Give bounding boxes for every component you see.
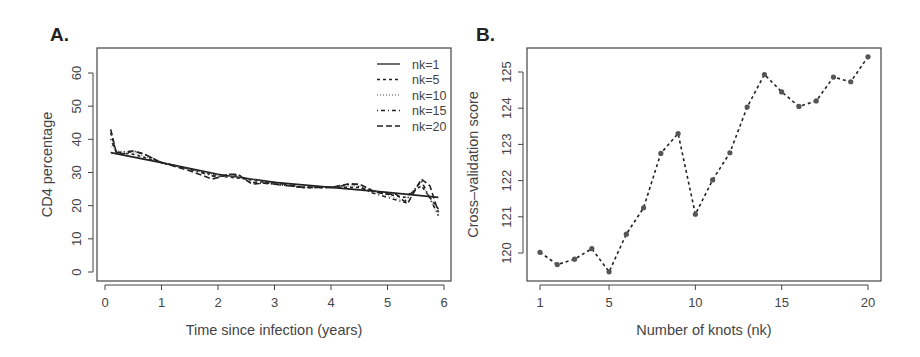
plot-frame — [527, 48, 881, 281]
data-point — [589, 246, 594, 251]
series-line-nk-15 — [111, 139, 439, 215]
data-point — [814, 98, 819, 103]
data-point — [537, 250, 542, 255]
y-tick-label: 10 — [69, 232, 84, 246]
y-axis: 0102030405060 — [69, 66, 93, 276]
chart-a: 0123456Time since infection (years)01020… — [0, 0, 460, 357]
y-tick-label: 0 — [69, 268, 84, 275]
legend-label: nk=10 — [412, 89, 446, 103]
data-point — [848, 79, 853, 84]
plot-frame — [97, 48, 451, 281]
chart-b: 15101520Number of knots (nk)120121122123… — [460, 0, 920, 357]
data-point — [796, 104, 801, 109]
x-tick-label: 0 — [101, 295, 108, 310]
y-tick-label: 40 — [69, 132, 84, 146]
x-tick-label: 2 — [214, 295, 221, 310]
data-point — [641, 205, 646, 210]
y-tick-label: 122 — [499, 170, 514, 192]
data-point — [555, 262, 560, 267]
y-tick-label: 30 — [69, 165, 84, 179]
x-tick-label: 15 — [774, 295, 788, 310]
data-point — [831, 74, 836, 79]
data-point — [865, 54, 870, 59]
y-tick-label: 123 — [499, 134, 514, 156]
y-tick-label: 50 — [69, 99, 84, 113]
data-point — [572, 257, 577, 262]
y-tick-label: 120 — [499, 242, 514, 264]
x-tick-label: 4 — [327, 295, 334, 310]
x-tick-label: 1 — [158, 295, 165, 310]
y-tick-label: 20 — [69, 198, 84, 212]
x-tick-label: 3 — [271, 295, 278, 310]
y-tick-label: 60 — [69, 66, 84, 80]
y-tick-label: 124 — [499, 97, 514, 119]
y-axis-label: CD4 percentage — [39, 112, 55, 218]
x-tick-label: 5 — [605, 295, 612, 310]
legend-label: nk=15 — [412, 104, 446, 118]
x-axis-label: Number of knots (nk) — [636, 322, 771, 338]
x-tick-label: 1 — [536, 295, 543, 310]
y-axis-label: Cross–validation score — [465, 91, 481, 238]
series-line-nk-1 — [111, 153, 439, 198]
series-line-nk-20 — [111, 129, 439, 212]
y-axis: 120121122123124125 — [499, 61, 523, 264]
data-point — [624, 232, 629, 237]
legend-label: nk=5 — [412, 73, 440, 87]
x-tick-label: 5 — [384, 295, 391, 310]
x-axis: 0123456 — [101, 285, 447, 310]
data-point — [658, 151, 663, 156]
series-line-nk-10 — [111, 146, 439, 216]
x-tick-label: 10 — [688, 295, 702, 310]
x-axis-label: Time since infection (years) — [186, 322, 363, 338]
panel-b: B. 15101520Number of knots (nk)120121122… — [460, 0, 920, 357]
x-tick-label: 20 — [861, 295, 875, 310]
legend-label: nk=20 — [412, 120, 446, 134]
y-tick-label: 121 — [499, 206, 514, 228]
legend: nk=1nk=5nk=10nk=15nk=20 — [377, 58, 446, 134]
y-tick-label: 125 — [499, 61, 514, 83]
data-point — [745, 105, 750, 110]
data-point — [727, 150, 732, 155]
series-line-cv-score — [540, 57, 868, 272]
data-point — [693, 212, 698, 217]
panel-a: A. 0123456Time since infection (years)01… — [0, 0, 460, 357]
data-point — [710, 177, 715, 182]
data-point — [676, 131, 681, 136]
data-point — [779, 89, 784, 94]
data-point — [762, 72, 767, 77]
x-axis: 15101520 — [536, 285, 875, 310]
data-point — [606, 269, 611, 274]
legend-label: nk=1 — [412, 58, 440, 72]
x-tick-label: 6 — [440, 295, 447, 310]
